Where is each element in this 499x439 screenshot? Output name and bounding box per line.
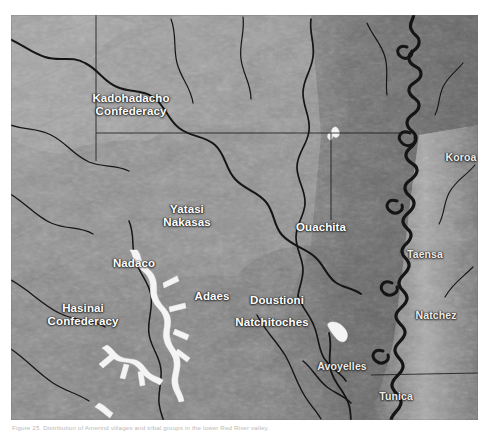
relief-map[interactable]: Kadohadacho Confederacy Yatasi Nakasas O… [11,15,478,420]
figure-caption: Figure 25. Distribution of Amerind villa… [12,424,482,435]
map-canvas [11,15,478,420]
figure-page: Kadohadacho Confederacy Yatasi Nakasas O… [0,0,499,439]
